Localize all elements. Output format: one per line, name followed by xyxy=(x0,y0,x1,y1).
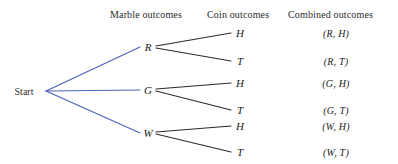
combined-outcome-W-H: (W, H) xyxy=(322,121,350,132)
combined-outcome-G-H: (G, H) xyxy=(322,78,349,89)
column-header-combined-outcomes: Combined outcomes xyxy=(288,9,373,20)
node-coin-W-T: T xyxy=(237,146,243,158)
combined-outcome-R-H: (R, H) xyxy=(323,28,349,39)
node-marble-W: W xyxy=(143,127,152,139)
node-coin-G-T: T xyxy=(237,104,243,116)
combined-outcome-G-T: (G, T) xyxy=(323,105,349,116)
branch-R-to-H xyxy=(156,33,231,46)
node-coin-W-H: H xyxy=(236,120,244,132)
combined-outcome-W-T: (W, T) xyxy=(323,147,349,158)
column-header-marble-outcomes: Marble outcomes xyxy=(110,9,182,20)
branch-R-to-T xyxy=(156,48,231,61)
stage2-branches xyxy=(156,33,231,152)
branch-start-to-G xyxy=(46,90,140,91)
node-marble-R: R xyxy=(145,41,152,53)
branch-W-to-H xyxy=(156,126,231,132)
node-coin-G-H: H xyxy=(236,77,244,89)
node-marble-G: G xyxy=(144,84,152,96)
branch-G-to-H xyxy=(156,83,231,89)
node-coin-R-T: T xyxy=(237,55,243,67)
branch-W-to-T xyxy=(156,134,231,152)
node-start: Start xyxy=(15,86,34,97)
combined-outcome-R-T: (R, T) xyxy=(324,56,349,67)
stage1-branches xyxy=(46,47,140,133)
probability-tree-figure: Marble outcomes Coin outcomes Combined o… xyxy=(0,0,398,164)
branch-start-to-R xyxy=(46,47,140,91)
branch-G-to-T xyxy=(156,91,231,110)
branch-start-to-W xyxy=(46,91,140,133)
column-header-coin-outcomes: Coin outcomes xyxy=(207,9,269,20)
node-coin-R-H: H xyxy=(236,27,244,39)
